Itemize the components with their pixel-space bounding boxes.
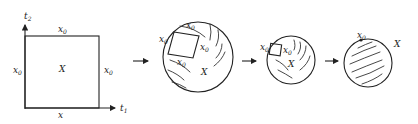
disc-medium-center-label: X (287, 59, 295, 69)
deformation-diagram: t2 t1 x0 x0 x0 x X x0 x0 x0 x0 X (0, 0, 418, 124)
disc-large-label-bottom: x0 (177, 57, 186, 68)
disc-medium-label-left: x0 (260, 42, 269, 53)
square-center-label: X (58, 64, 66, 74)
small-square (269, 43, 281, 55)
disc-large-label-top: x0 (186, 20, 195, 31)
disc-large-label-left: x0 (159, 34, 168, 45)
inner-square (168, 32, 199, 58)
left-edge-label: x0 (13, 65, 22, 76)
t1-axis-label: t1 (120, 103, 127, 114)
disc-large-panel: x0 x0 x0 x0 X (159, 20, 233, 92)
bottom-edge-label: x (58, 110, 63, 120)
sphere-point-label: x0 (357, 30, 366, 41)
top-edge-label: x0 (58, 24, 67, 35)
square-panel: t2 t1 x0 x0 x0 x X (13, 11, 127, 120)
disc-large-label-right: x0 (200, 42, 209, 53)
disc-medium-label-right: x0 (283, 45, 292, 56)
right-edge-label: x0 (104, 65, 113, 76)
disc-medium-panel: x0 x0 X (260, 36, 315, 84)
t2-axis-label: t2 (24, 11, 32, 22)
sphere-panel: x0 X (344, 30, 401, 87)
sphere-outside-label: X (393, 39, 401, 49)
disc-large-center-label: X (200, 67, 208, 77)
